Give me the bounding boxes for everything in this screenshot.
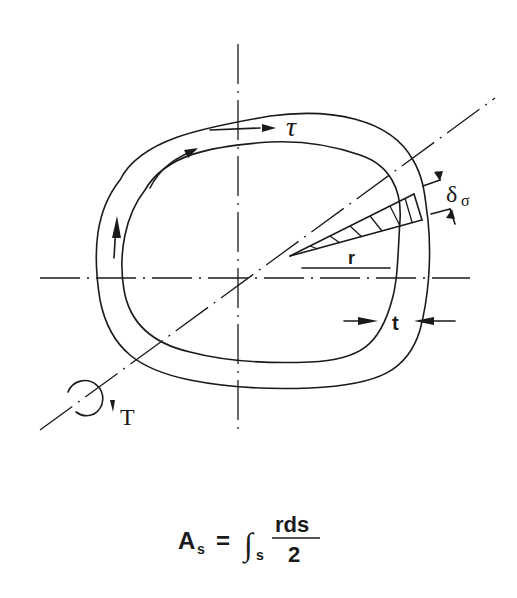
shear-stress-label: τ	[286, 111, 297, 142]
shear-flow-arrowhead-left	[112, 216, 121, 238]
delta-subscript: σ	[461, 192, 470, 209]
shear-flow-top-line	[210, 128, 260, 130]
delta-dim-line-top	[423, 180, 440, 186]
outer-wall	[96, 113, 429, 388]
thickness-arrowhead-left	[358, 317, 378, 325]
torque-axis	[40, 98, 495, 430]
radius-label: r	[348, 248, 355, 268]
torque-arrowhead	[110, 400, 115, 412]
svg-text:rds: rds	[275, 512, 309, 537]
thickness-label: t	[392, 312, 399, 334]
svg-text:A: A	[178, 527, 195, 554]
torsion-section-diagram: τ T r t δ σ A s = ∫ s rds 2	[0, 0, 517, 598]
svg-text:2: 2	[288, 542, 300, 567]
svg-text:s: s	[256, 547, 264, 563]
svg-text:s: s	[197, 541, 205, 557]
delta-label: δ	[446, 181, 457, 207]
inner-wall	[122, 142, 400, 363]
svg-text:∫: ∫	[242, 526, 255, 564]
torque-circle-arrow-tail	[76, 412, 94, 416]
torque-circle-arrow	[68, 381, 103, 414]
shear-flow-arrowhead-top	[262, 124, 276, 132]
delta-dim-line-bottom	[431, 209, 450, 214]
area-formula: A s = ∫ s rds 2	[178, 512, 320, 567]
area-element-wedge	[290, 194, 422, 256]
thickness-arrowhead-right	[414, 317, 434, 325]
torque-label: T	[120, 404, 135, 430]
delta-arrowhead-top	[434, 171, 443, 181]
svg-text:=: =	[216, 527, 230, 554]
